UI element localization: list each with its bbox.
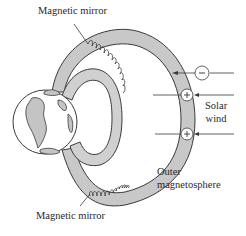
outer-magnetosphere-label: Outer magnetosphere — [157, 166, 221, 191]
solar-wind-line1: Solar — [205, 99, 227, 112]
solar-wind-label: Solar wind — [205, 99, 227, 125]
magnetosphere-diagram: Magnetic mirror Solar wind Outer magneto… — [0, 0, 246, 236]
top-magnetic-mirror-label: Magnetic mirror — [38, 5, 107, 17]
solar-wind-line2: wind — [205, 112, 227, 125]
top-mirror-leader — [74, 24, 88, 44]
outer-line2: magnetosphere — [157, 179, 221, 192]
bottom-mirror-leader — [80, 194, 90, 206]
earth-globe — [13, 90, 77, 154]
bottom-magnetic-mirror-label: Magnetic mirror — [36, 210, 105, 222]
outer-line1: Outer — [157, 166, 221, 179]
